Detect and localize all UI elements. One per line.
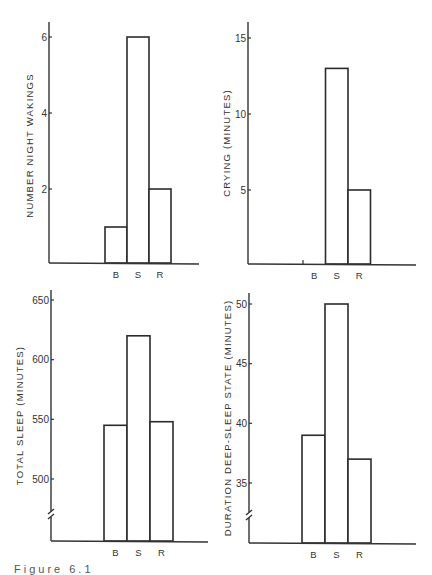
category-label: R bbox=[157, 269, 164, 280]
y-tick-label: 50 bbox=[236, 299, 248, 310]
y-axis-title: TOTAL SLEEP (MINUTES) bbox=[14, 346, 25, 485]
bar-S bbox=[326, 68, 349, 264]
category-label: B bbox=[311, 270, 317, 281]
figure-caption: Figure 6.1 bbox=[14, 563, 94, 575]
category-label: R bbox=[158, 547, 165, 558]
x-axis bbox=[51, 541, 208, 542]
bar-S bbox=[127, 336, 150, 541]
chart-top-left: BSR246NUMBER NIGHT WAKINGS bbox=[24, 22, 199, 280]
y-tick-label: 45 bbox=[236, 358, 248, 369]
category-label: S bbox=[135, 547, 141, 558]
category-label: B bbox=[310, 549, 316, 560]
bar-B bbox=[104, 425, 127, 541]
y-tick-label: 10 bbox=[235, 109, 247, 120]
y-tick-label: 35 bbox=[236, 478, 248, 489]
y-tick-label: 650 bbox=[32, 295, 49, 306]
y-tick-label: 4 bbox=[41, 108, 47, 119]
category-label: R bbox=[356, 549, 363, 560]
y-tick-label: 6 bbox=[41, 32, 47, 43]
bar-S bbox=[325, 304, 348, 543]
x-axis bbox=[249, 543, 416, 544]
y-tick-label: 40 bbox=[236, 418, 248, 429]
bar-R bbox=[150, 422, 173, 541]
y-tick-label: 2 bbox=[41, 184, 47, 195]
y-tick-label: 550 bbox=[32, 414, 49, 425]
chart-top-right: BSR51015CRYING (MINUTES) bbox=[221, 22, 416, 281]
bar-B bbox=[105, 227, 127, 263]
bar-S bbox=[127, 37, 149, 263]
category-label: S bbox=[334, 270, 340, 281]
category-label: S bbox=[333, 549, 339, 560]
category-label: S bbox=[135, 269, 141, 280]
bar-R bbox=[348, 190, 371, 264]
y-axis-title: CRYING (MINUTES) bbox=[221, 89, 232, 197]
y-tick-label: 5 bbox=[240, 185, 246, 196]
category-label: R bbox=[356, 270, 363, 281]
x-axis bbox=[248, 264, 416, 265]
chart-bottom-left: BSR500550600650TOTAL SLEEP (MINUTES) bbox=[14, 290, 208, 558]
y-tick-label: 600 bbox=[32, 354, 49, 365]
bar-R bbox=[149, 189, 171, 263]
bar-B bbox=[302, 435, 325, 543]
chart-bottom-right: BSR35404550DURATION DEEP-SLEEP STATE (MI… bbox=[222, 293, 416, 560]
category-label: B bbox=[113, 269, 119, 280]
y-axis-title: DURATION DEEP-SLEEP STATE (MINUTES) bbox=[222, 300, 233, 537]
y-tick-label: 500 bbox=[32, 474, 49, 485]
category-label: B bbox=[112, 547, 118, 558]
y-axis-title: NUMBER NIGHT WAKINGS bbox=[24, 73, 35, 217]
y-tick-label: 15 bbox=[235, 33, 247, 44]
bar-R bbox=[348, 459, 371, 543]
x-axis bbox=[49, 263, 199, 264]
